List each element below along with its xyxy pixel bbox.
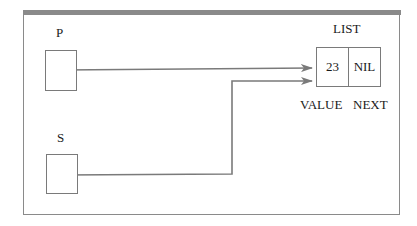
pointer-p-box [45, 50, 77, 91]
pointer-p-label: P [56, 26, 63, 40]
value-field-label: VALUE [300, 98, 342, 112]
next-cell: NIL [348, 48, 380, 86]
arrow-s-to-list [62, 81, 312, 175]
pointer-s-label: S [57, 131, 64, 145]
arrow-p-to-list [61, 68, 312, 70]
next-field-label: NEXT [353, 98, 388, 112]
list-node: 23 NIL [316, 47, 381, 87]
list-title: LIST [333, 22, 360, 36]
pointer-s-box [46, 154, 78, 194]
value-cell: 23 [317, 48, 348, 86]
